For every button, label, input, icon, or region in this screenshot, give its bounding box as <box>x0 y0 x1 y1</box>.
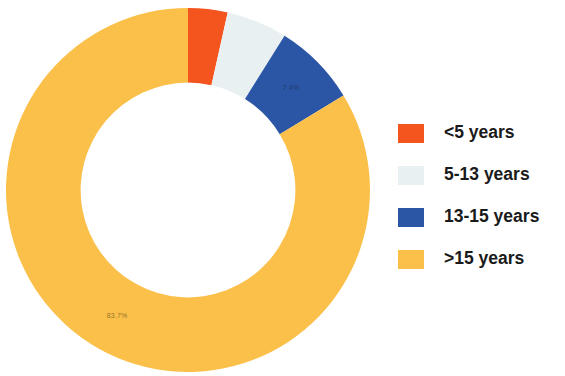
legend-item-label: <5 years <box>444 124 515 142</box>
donut-data-label: 7.4% <box>283 84 300 91</box>
legend: <5 years5-13 years13-15 years>15 years <box>398 112 558 280</box>
legend-item[interactable]: 13-15 years <box>398 196 558 238</box>
legend-swatch-icon <box>398 124 424 143</box>
legend-item[interactable]: <5 years <box>398 112 558 154</box>
legend-item-label: 5-13 years <box>444 166 530 184</box>
donut-plot-area: 7.4%83.7% <box>0 0 380 376</box>
legend-item[interactable]: >15 years <box>398 238 558 280</box>
donut-slice-group <box>6 8 370 372</box>
legend-item-label: 13-15 years <box>444 208 539 226</box>
legend-swatch-icon <box>398 208 424 227</box>
legend-item[interactable]: 5-13 years <box>398 154 558 196</box>
legend-swatch-icon <box>398 166 424 185</box>
legend-item-label: >15 years <box>444 250 524 268</box>
donut-chart-figure: 7.4%83.7% <5 years5-13 years13-15 years>… <box>0 0 565 376</box>
donut-data-label: 83.7% <box>107 312 128 319</box>
donut-svg: 7.4%83.7% <box>0 0 380 376</box>
legend-swatch-icon <box>398 250 424 269</box>
